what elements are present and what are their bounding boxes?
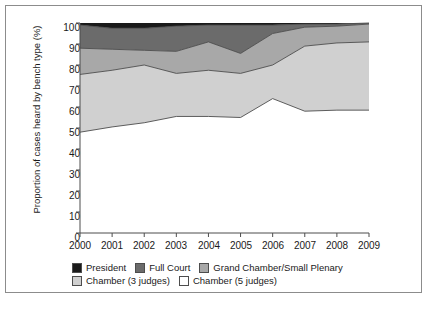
plot-areas — [80, 23, 369, 132]
figure-container: Proportion of cases heard by bench type … — [0, 0, 435, 310]
y-tick-marks — [76, 23, 80, 233]
legend-item-full-court: Full Court — [135, 262, 190, 273]
chart-frame: Proportion of cases heard by bench type … — [5, 5, 422, 293]
legend-label-full-court: Full Court — [149, 262, 190, 273]
legend-item-grand-chamber: Grand Chamber/Small Plenary — [199, 262, 342, 273]
legend-label-chamber-3: Chamber (3 judges) — [86, 275, 170, 286]
legend-row-1: President Full Court Grand Chamber/Small… — [72, 262, 352, 273]
legend-item-president: President — [72, 262, 126, 273]
legend-swatch-grand-chamber — [199, 263, 209, 273]
chart-legend: President Full Court Grand Chamber/Small… — [72, 262, 352, 288]
x-tick-2009: 2009 — [349, 240, 389, 251]
legend-label-president: President — [86, 262, 126, 273]
legend-item-chamber-3: Chamber (3 judges) — [72, 275, 170, 286]
legend-item-chamber-5: Chamber (5 judges) — [179, 275, 277, 286]
legend-label-grand-chamber: Grand Chamber/Small Plenary — [213, 262, 342, 273]
legend-swatch-chamber-3 — [72, 276, 82, 286]
legend-swatch-full-court — [135, 263, 145, 273]
legend-label-chamber-5: Chamber (5 judges) — [193, 275, 277, 286]
legend-row-2: Chamber (3 judges) Chamber (5 judges) — [72, 275, 352, 286]
x-axis-tick-labels: 2000 2001 2002 2003 2004 2005 2006 2007 … — [6, 240, 435, 256]
x-tick-marks — [80, 233, 369, 237]
legend-swatch-chamber-5 — [179, 276, 189, 286]
legend-swatch-president — [72, 263, 82, 273]
